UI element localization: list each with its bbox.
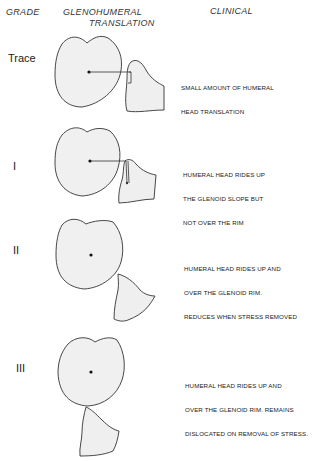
diagram-grade-2: [56, 219, 155, 321]
glenoid-icon: [114, 274, 155, 321]
diagram-trace: [55, 36, 164, 111]
glenohumeral-diagrams: [0, 0, 316, 461]
glenoid-icon: [80, 407, 119, 456]
glenoid-icon: [119, 160, 156, 203]
diagram-grade-3: [58, 338, 124, 456]
humeral-head-icon: [56, 219, 123, 289]
humeral-head-icon: [55, 128, 120, 196]
diagram-grade-1: [55, 128, 156, 203]
glenoid-icon: [126, 60, 164, 111]
